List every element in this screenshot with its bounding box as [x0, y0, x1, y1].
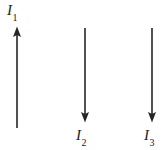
wire-3-label: I3 [144, 128, 154, 146]
wire-1-label: I1 [7, 3, 17, 21]
wire-1-label-symbol: I [7, 2, 12, 18]
current-wires-figure: I1 I2 I3 [0, 0, 168, 150]
wire-3-label-subscript: 3 [150, 137, 155, 148]
wire-2-label: I2 [76, 128, 86, 146]
wire-2-label-symbol: I [76, 127, 81, 143]
wire-2-arrow [81, 28, 89, 123]
wire-1-label-subscript: 1 [13, 12, 18, 23]
wire-1-arrow [13, 27, 21, 129]
wire-3-arrow [148, 28, 156, 123]
wire-3-label-symbol: I [144, 127, 149, 143]
wire-2-label-subscript: 2 [82, 137, 87, 148]
